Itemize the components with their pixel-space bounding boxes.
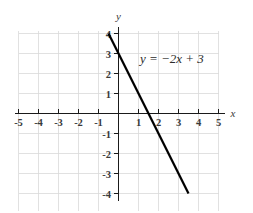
x-tick-label: 5 (216, 117, 221, 128)
x-tick-label: -2 (74, 117, 83, 128)
x-tick-label: -4 (34, 117, 43, 128)
x-tick-label: -1 (94, 117, 103, 128)
equation-annotation: y = −2x + 3 (138, 51, 204, 66)
coordinate-plane: -5 -4 -3 -2 -1 1 2 3 4 5 4 3 2 1 -1 -2 -… (0, 0, 253, 213)
y-tick-label: 1 (106, 89, 111, 100)
y-tick-label: -3 (102, 169, 111, 180)
y-tick-label: -2 (102, 149, 111, 160)
y-tick-label: -1 (102, 129, 111, 140)
y-tick-label: 3 (106, 49, 111, 60)
x-axis-label: x (230, 107, 236, 119)
y-tick-label: -4 (102, 189, 111, 200)
x-tick-label: -5 (14, 117, 23, 128)
figure-background (0, 0, 253, 213)
x-tick-label: 4 (196, 117, 202, 128)
x-tick-label: 3 (176, 117, 181, 128)
y-tick-label: 2 (106, 69, 111, 80)
x-tick-label: -3 (54, 117, 63, 128)
graph-figure: -5 -4 -3 -2 -1 1 2 3 4 5 4 3 2 1 -1 -2 -… (0, 0, 253, 213)
x-tick-label: 1 (136, 117, 141, 128)
x-tick-label: 2 (156, 117, 161, 128)
y-axis-label: y (115, 10, 121, 22)
